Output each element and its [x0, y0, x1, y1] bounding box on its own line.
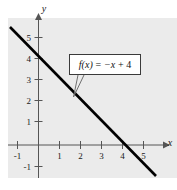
graph-svg: -1 1 2 3 4 5 5 4 3 2 1 -1 x y	[0, 0, 177, 190]
function-line-fx	[10, 27, 156, 176]
x-tick-label-2: 2	[78, 151, 83, 161]
x-tick-label-neg1: -1	[14, 151, 22, 161]
y-tick-label-1: 1	[27, 117, 32, 127]
y-axis-label: y	[41, 3, 47, 14]
fn-expr-b: + 4	[115, 59, 131, 70]
x-tick-label-4: 4	[120, 151, 125, 161]
y-tick-label-4: 4	[27, 54, 32, 64]
y-tick-label-neg1: -1	[24, 162, 32, 172]
x-tick-label-3: 3	[99, 151, 104, 161]
y-tick-label-3: 3	[27, 75, 32, 85]
y-tick-label-2: 2	[27, 96, 32, 106]
x-axis-label: x	[167, 137, 173, 148]
y-axis-arrow-icon	[35, 13, 42, 20]
function-label-text: f(x) = −x + 4	[79, 59, 132, 70]
y-tick-label-5: 5	[27, 33, 32, 43]
x-tick-label-5: 5	[141, 151, 146, 161]
callout-leader-line	[74, 75, 85, 97]
function-label-callout: f(x) = −x + 4	[69, 54, 141, 75]
fn-expr-a: −x	[104, 59, 115, 70]
x-tick-label-1: 1	[57, 151, 62, 161]
fn-arg: (x)	[82, 59, 93, 70]
figure-container: -1 1 2 3 4 5 5 4 3 2 1 -1 x y f(x) = −x …	[0, 0, 177, 190]
fn-equals: =	[93, 59, 104, 70]
